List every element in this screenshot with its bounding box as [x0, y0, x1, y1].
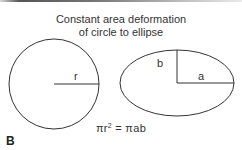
semi-minor-label: b: [157, 57, 163, 69]
radius-label: r: [74, 70, 78, 82]
equation-right: = πab: [112, 122, 146, 134]
area-equation: πr2 = πab: [0, 122, 242, 134]
panel-label: B: [6, 134, 15, 148]
equation-left: πr: [96, 122, 108, 134]
semi-major-label: a: [198, 70, 205, 82]
